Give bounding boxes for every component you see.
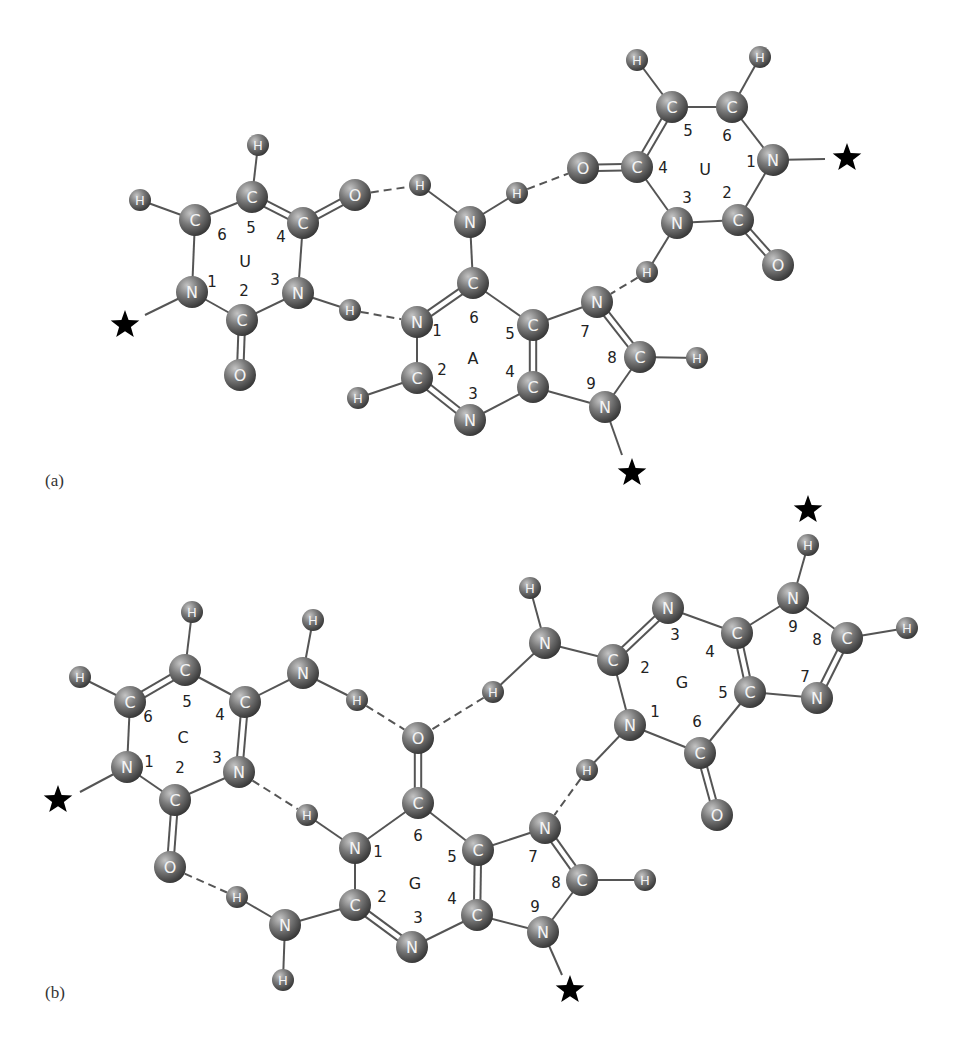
atom-symbol: C xyxy=(411,369,422,388)
atom-symbol: C xyxy=(666,98,677,117)
hydrogen-bond-dashed-line xyxy=(611,278,638,294)
ring-position-number: 1 xyxy=(207,273,217,291)
star-icon xyxy=(618,458,647,485)
atom-n: N xyxy=(454,206,486,238)
atom-symbol: C xyxy=(169,791,180,810)
base-letter-label: A xyxy=(468,349,479,368)
ring-position-number: 4 xyxy=(276,228,286,246)
base-letter-label: G xyxy=(409,874,421,893)
atom-h: H xyxy=(626,49,648,71)
ring-position-number: 2 xyxy=(175,759,185,777)
atom-symbol: H xyxy=(253,138,263,153)
atom-symbol: C xyxy=(634,348,645,367)
atom-h: H xyxy=(634,869,656,891)
atom-n: N xyxy=(581,286,613,318)
atom-n: N xyxy=(801,682,833,714)
ring-position-number: 5 xyxy=(447,848,457,866)
ring-position-number: 6 xyxy=(217,226,227,244)
star-icon xyxy=(833,143,862,170)
ring-position-number: 4 xyxy=(447,890,457,908)
ring-position-number: 3 xyxy=(682,189,692,207)
atom-symbol: C xyxy=(297,214,308,233)
atom-symbol: C xyxy=(744,683,755,702)
atom-symbol: H xyxy=(352,693,362,708)
ring-position-number: 3 xyxy=(468,385,478,403)
atom-symbol: H xyxy=(187,605,197,620)
atom-n: N xyxy=(527,916,559,948)
atom-symbol: N xyxy=(464,213,476,232)
atom-symbol: C xyxy=(349,896,360,915)
atom-symbol: C xyxy=(694,744,705,763)
ring-position-number: 2 xyxy=(377,888,387,906)
star-icon xyxy=(111,310,140,337)
star-icon xyxy=(556,975,585,1002)
atom-o: O xyxy=(567,152,599,184)
ring-position-number: 2 xyxy=(722,184,732,202)
atom-symbol: C xyxy=(246,188,257,207)
atom-c: C xyxy=(401,362,433,394)
base-letter-label: U xyxy=(699,160,711,179)
atom-symbol: C xyxy=(726,98,737,117)
atom-o: O xyxy=(339,179,371,211)
atom-n: N xyxy=(661,207,693,239)
atom-h: H xyxy=(296,804,318,826)
atom-symbol: H xyxy=(902,621,912,636)
atom-c: C xyxy=(566,864,598,896)
atom-c: C xyxy=(734,676,766,708)
atom-symbol: N xyxy=(411,313,423,332)
atom-h: H xyxy=(226,886,248,908)
atom-h: H xyxy=(506,182,528,204)
ring-position-number: 9 xyxy=(530,898,540,916)
ring-position-number: 3 xyxy=(413,909,423,927)
atom-c: C xyxy=(621,151,653,183)
atom-symbol: H xyxy=(135,193,145,208)
atom-symbol: C xyxy=(236,311,247,330)
atom-symbol: N xyxy=(297,664,309,683)
atom-symbol: N xyxy=(671,214,683,233)
ring-position-number: 6 xyxy=(469,309,479,327)
atom-symbol: O xyxy=(577,159,590,178)
ring-position-number: 4 xyxy=(705,643,715,661)
panel-label: (a) xyxy=(45,471,64,490)
atom-h: H xyxy=(409,174,431,196)
atom-symbol: H xyxy=(642,265,652,280)
atom-n: N xyxy=(589,391,621,423)
ring-position-number: 5 xyxy=(505,325,515,343)
ring-position-number: 1 xyxy=(650,703,660,721)
atom-c: C xyxy=(831,622,863,654)
atom-symbol: N xyxy=(539,819,551,838)
panel-a-uracil-adenine-uracil: HCCHCONCNOHHNHCNCHNCCNCHNHHCCCONNCOH6541… xyxy=(45,46,861,490)
atom-symbol: N xyxy=(662,599,674,618)
ring-position-number: 8 xyxy=(551,874,561,892)
atom-symbol: O xyxy=(711,806,724,825)
ring-position-number: 7 xyxy=(528,848,538,866)
atom-symbol: N xyxy=(292,284,304,303)
ring-position-number: 7 xyxy=(580,323,590,341)
atom-h: H xyxy=(129,189,151,211)
atom-h: H xyxy=(797,534,819,556)
atom-h: H xyxy=(247,134,269,156)
atom-symbol: H xyxy=(755,50,765,65)
atoms: HCCHCNHHNCNOOCHNCNHHNCCNCHNHNCHNCCNCNHHN… xyxy=(69,534,918,991)
atom-symbol: H xyxy=(512,186,522,201)
atom-symbol: O xyxy=(234,366,247,385)
atom-symbol: H xyxy=(803,538,813,553)
atom-symbol: N xyxy=(186,283,198,302)
atom-c: C xyxy=(236,181,268,213)
atom-n: N xyxy=(529,812,561,844)
atom-n: N xyxy=(777,582,809,614)
ring-position-number: 4 xyxy=(505,363,515,381)
atom-h: H xyxy=(482,681,504,703)
atom-symbol: O xyxy=(772,256,785,275)
atom-symbol: N xyxy=(406,938,418,957)
panel-b-cytosine-guanine-guanine: HCCHCNHHNCNOOCHNCNHHNCCNCHNHNCHNCCNCNHHN… xyxy=(44,495,918,1002)
atom-c: C xyxy=(517,371,549,403)
atom-n: N xyxy=(401,306,433,338)
atom-symbol: O xyxy=(412,729,425,748)
atom-symbol: N xyxy=(464,411,476,430)
ring-position-number: 2 xyxy=(640,659,650,677)
atom-c: C xyxy=(339,889,371,921)
atom-h: H xyxy=(302,609,324,631)
atom-symbol: N xyxy=(539,634,551,653)
atom-symbol: O xyxy=(164,858,177,877)
